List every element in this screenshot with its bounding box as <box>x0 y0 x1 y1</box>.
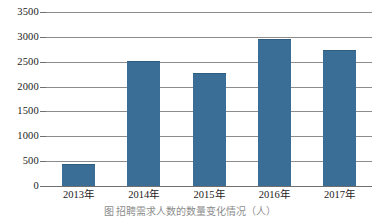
y-tick-mark <box>40 161 46 162</box>
y-tick-mark <box>40 12 46 13</box>
gridline <box>46 186 372 187</box>
figure-caption: 图 招聘需求人数的数量变化情况（人） <box>0 205 380 218</box>
y-tick-label: 1500 <box>17 106 39 117</box>
bar-chart-figure: 0500100015002000250030003500 2013年2014年2… <box>0 0 380 218</box>
y-axis-labels: 0500100015002000250030003500 <box>0 12 39 186</box>
bar <box>193 73 226 186</box>
y-tick-label: 2000 <box>17 81 39 92</box>
x-tick-label: 2013年 <box>63 188 94 202</box>
gridline <box>46 37 372 38</box>
y-tick-label: 3000 <box>17 32 39 43</box>
y-tick-label: 0 <box>34 181 39 192</box>
y-tick-label: 3500 <box>17 7 39 18</box>
y-tick-mark <box>40 87 46 88</box>
y-tick-mark <box>40 136 46 137</box>
y-tick-mark <box>40 62 46 63</box>
x-tick-label: 2016年 <box>259 188 290 202</box>
bar <box>258 39 291 186</box>
bar <box>127 61 160 186</box>
y-tick-mark <box>40 186 46 187</box>
y-tick-mark <box>40 37 46 38</box>
gridline <box>46 12 372 13</box>
bar <box>323 50 356 186</box>
x-axis-labels: 2013年2014年2015年2016年2017年 <box>46 188 372 204</box>
plot-area <box>46 12 372 186</box>
y-tick-label: 2500 <box>17 56 39 67</box>
bar <box>62 164 95 186</box>
x-tick-label: 2014年 <box>128 188 159 202</box>
y-tick-mark <box>40 111 46 112</box>
x-tick-label: 2015年 <box>194 188 225 202</box>
y-tick-label: 500 <box>23 156 39 167</box>
y-tick-label: 1000 <box>17 131 39 142</box>
x-tick-label: 2017年 <box>324 188 355 202</box>
